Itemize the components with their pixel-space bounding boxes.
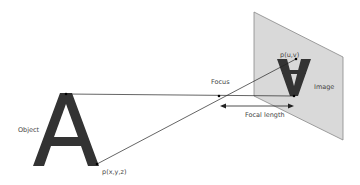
object-point-top bbox=[65, 93, 68, 96]
image-point-bottom bbox=[293, 95, 296, 98]
object-point bbox=[96, 163, 99, 166]
object-letter-a bbox=[33, 93, 99, 166]
object-label: Object bbox=[18, 126, 40, 134]
image-label: Image bbox=[314, 83, 334, 91]
image-point-label: p(u,v) bbox=[280, 51, 299, 59]
pinhole-camera-diagram: Object p(x,y,z) Focus p(u,v) Image Focal… bbox=[0, 0, 360, 185]
object-point-label: p(x,y,z) bbox=[102, 168, 126, 176]
focus-label: Focus bbox=[211, 78, 230, 86]
focus-point bbox=[218, 95, 221, 98]
focal-length-label: Focal length bbox=[245, 111, 285, 119]
